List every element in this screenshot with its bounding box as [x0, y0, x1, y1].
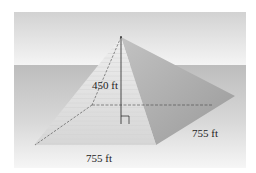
base-side-label: 755 ft	[192, 128, 218, 139]
pyramid-diagram	[0, 0, 256, 173]
pyramid-figure: 450 ft 755 ft 755 ft	[0, 0, 256, 173]
base-front-label: 755 ft	[86, 153, 112, 164]
apex-point	[120, 36, 122, 38]
height-label: 450 ft	[92, 80, 118, 91]
